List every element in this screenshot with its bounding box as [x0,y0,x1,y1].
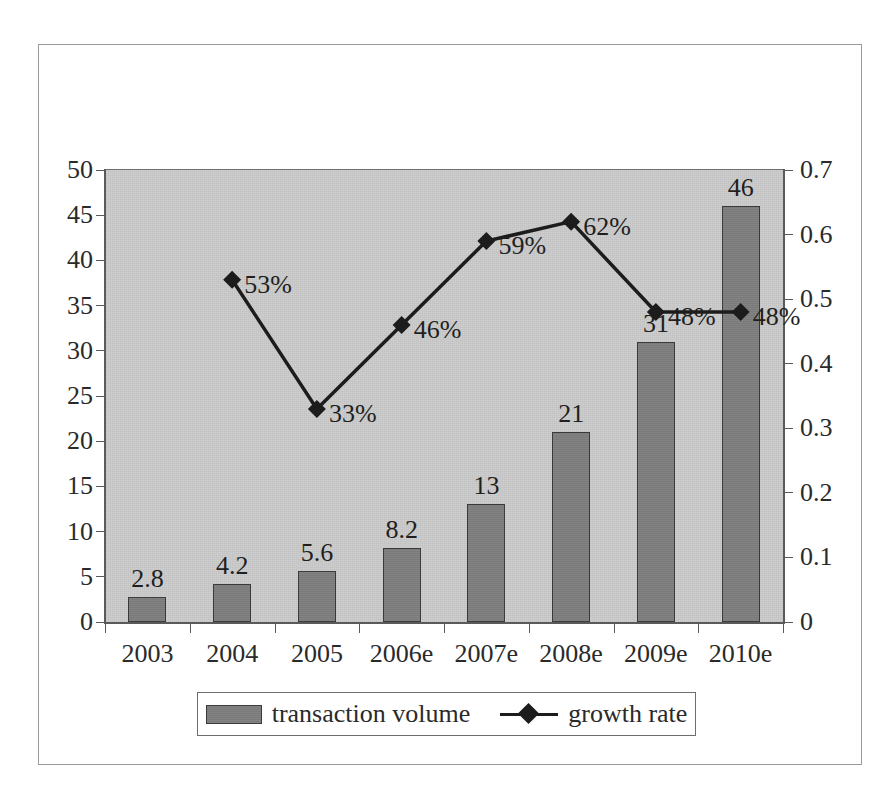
left-axis-tick-label: 10 [67,519,93,545]
category-axis-tick [275,623,276,633]
left-axis-tick [96,486,105,487]
growth-label-2010e: 48% [753,304,801,330]
growth-label-2005: 33% [329,401,377,427]
left-axis-tick-label: 5 [80,564,93,590]
plot-top-border [105,169,784,170]
bar-2010e [722,206,760,622]
right-axis-tick [784,492,793,493]
right-axis-tick [784,363,793,364]
left-axis-tick [96,531,105,532]
category-axis-tick [783,623,784,633]
left-axis-tick-label: 40 [67,247,93,273]
left-axis-tick [96,576,105,577]
category-axis-tick [105,623,106,633]
right-axis-tick-label: 0.2 [800,480,833,506]
bar-2006e [383,548,421,622]
left-axis-tick-label: 45 [67,202,93,228]
bar-2005 [298,571,336,622]
category-axis-tick [698,623,699,633]
right-axis-tick [784,428,793,429]
legend-bar-swatch-icon [206,705,262,724]
growth-label-2006e: 46% [414,317,462,343]
category-label-2007e: 2007e [444,640,529,668]
right-axis-tick-label: 0.6 [800,222,833,248]
bar-label-2004: 4.2 [190,553,275,579]
left-axis-tick-label: 20 [67,428,93,454]
left-axis-tick [96,260,105,261]
category-label-2004: 2004 [190,640,275,668]
category-label-2006e: 2006e [359,640,444,668]
category-axis-tick [529,623,530,633]
bar-label-2006e: 8.2 [359,517,444,543]
category-axis-tick [190,623,191,633]
right-axis-line [783,169,785,624]
left-axis-tick [96,350,105,351]
bar-2008e [552,432,590,622]
category-label-2008e: 2008e [529,640,614,668]
bar-label-2003: 2.8 [105,566,190,592]
left-axis-tick [96,441,105,442]
right-axis-tick [784,557,793,558]
right-axis-tick-label: 0.4 [800,351,833,377]
right-axis-tick-label: 0.1 [800,544,833,570]
right-axis-tick-label: 0.7 [800,157,833,183]
legend-entry-growth-rate: growth rate [500,701,687,727]
bar-2009e [637,342,675,622]
legend-label-transaction-volume: transaction volume [272,701,471,727]
right-axis-tick-label: 0.5 [800,286,833,312]
category-axis-tick [444,623,445,633]
category-label-2009e: 2009e [614,640,699,668]
growth-label-2004: 53% [244,272,292,298]
chart-legend: transaction volume growth rate [197,692,696,736]
legend-label-growth-rate: growth rate [568,701,687,727]
category-axis-tick [614,623,615,633]
left-axis-tick [96,622,105,623]
growth-label-2009e: 48% [668,304,716,330]
left-axis-tick [96,170,105,171]
left-axis-tick-label: 15 [67,473,93,499]
bar-label-2007e: 13 [444,473,529,499]
bar-label-2010e: 46 [698,175,783,201]
growth-label-2007e: 59% [498,233,546,259]
category-label-2010e: 2010e [698,640,783,668]
growth-label-2008e: 62% [583,214,631,240]
left-axis-tick-label: 50 [67,157,93,183]
right-axis-tick [784,299,793,300]
right-axis-tick [784,622,793,623]
left-axis-tick-label: 35 [67,293,93,319]
right-axis-tick [784,170,793,171]
right-axis-tick [784,234,793,235]
bar-2007e [467,504,505,622]
legend-line-diamond-icon [500,704,558,724]
left-axis-tick-label: 30 [67,338,93,364]
legend-entry-transaction-volume: transaction volume [206,701,471,727]
left-axis-tick [96,215,105,216]
bar-label-2008e: 21 [529,401,614,427]
left-axis-line [104,169,106,624]
left-axis-tick-label: 0 [80,609,93,635]
left-axis-tick [96,396,105,397]
right-axis-tick-label: 0 [800,609,813,635]
left-axis-tick-label: 25 [67,383,93,409]
category-label-2005: 2005 [275,640,360,668]
category-label-2003: 2003 [105,640,190,668]
bar-label-2005: 5.6 [275,540,360,566]
bar-2003 [128,597,166,622]
left-axis-tick [96,305,105,306]
right-axis-tick-label: 0.3 [800,415,833,441]
category-axis-tick [359,623,360,633]
bar-2004 [213,584,251,622]
